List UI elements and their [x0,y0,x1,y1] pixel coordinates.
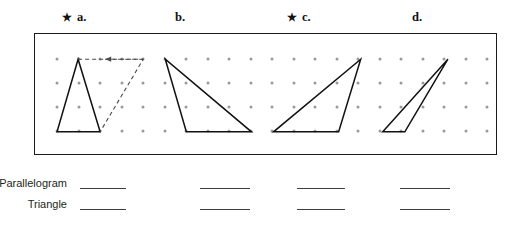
star-icon: ★ [287,12,297,23]
answer-blank-parallelogram-b[interactable] [200,188,250,189]
column-header-d: d. [412,9,422,25]
triangle-d [383,59,448,132]
answer-blank-parallelogram-a[interactable] [80,188,126,189]
figure-a [57,57,143,132]
answer-blank-parallelogram-d[interactable] [400,188,450,189]
answer-blank-triangle-a[interactable] [80,209,126,210]
star-icon: ★ [62,12,72,23]
row-label-parallelogram: Parallelogram [0,176,67,190]
column-header-b: b. [175,9,185,25]
answer-row-parallelogram: Parallelogram [0,176,523,194]
column-header-c: ★ c. [287,9,311,25]
answer-row-triangle: Triangle [0,197,523,215]
figure-c [274,59,361,132]
triangle-a [57,59,100,132]
triangle-c [274,59,361,132]
column-label-d: d. [412,10,422,25]
column-header-a: ★ a. [62,9,86,25]
figure-d [383,59,448,132]
figure-b [165,59,251,132]
answer-blank-triangle-b[interactable] [200,209,250,210]
dashed-parallelogram-a [78,59,143,132]
column-label-b: b. [175,10,185,25]
column-label-c: c. [302,10,311,25]
answer-blank-triangle-d[interactable] [400,209,450,210]
answer-blank-parallelogram-c[interactable] [297,188,345,189]
column-label-a: a. [77,10,86,25]
triangle-b [165,59,251,132]
dot-grid-panel [34,33,497,155]
row-label-triangle: Triangle [28,197,67,211]
figures-layer [35,34,496,154]
answer-blank-triangle-c[interactable] [297,209,345,210]
